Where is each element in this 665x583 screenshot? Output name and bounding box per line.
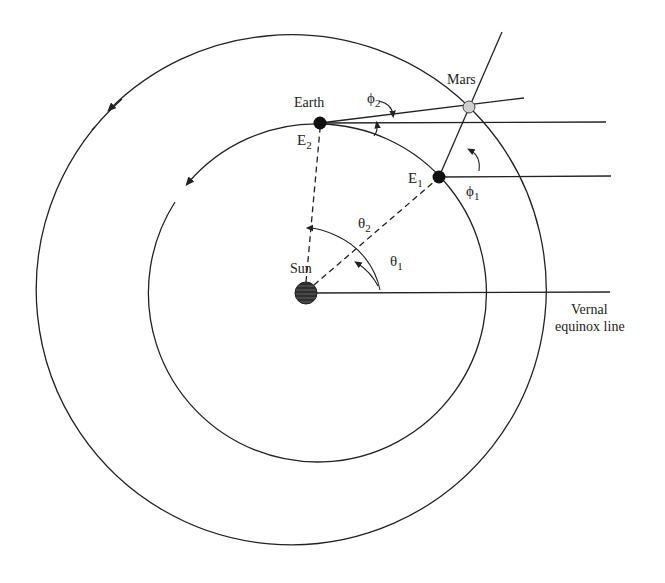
e2-label: E2 (297, 132, 312, 151)
earth-e2-dot (314, 117, 327, 130)
vernal-equinox-line (306, 292, 610, 293)
theta2-arc-tail (309, 228, 337, 236)
mars-label: Mars (447, 72, 476, 87)
theta2-label: θ2 (358, 215, 371, 234)
phi2-label: ϕ2 (367, 90, 380, 109)
e1-label: E1 (408, 170, 423, 189)
phi1-arc (470, 150, 479, 171)
sun-to-e1-dashed (314, 181, 435, 285)
earth-e1-dot (433, 171, 446, 184)
earth-label: Earth (294, 95, 324, 110)
sun-to-e2-dashed (306, 129, 320, 282)
e1-reference-line (439, 176, 611, 177)
vernal-label-line2: equinox line (555, 319, 625, 334)
e2-sightline-to-mars (320, 98, 524, 123)
mars-dot (463, 101, 475, 113)
theta1-label: θ1 (390, 253, 403, 272)
phi2-arc-upper (379, 101, 393, 115)
phi1-label: ϕ1 (466, 183, 479, 202)
vernal-label-line1: Vernal (571, 302, 608, 317)
theta2-arc (337, 236, 380, 290)
sun-label: Sun (290, 261, 312, 276)
orbit-diagram: Earth Mars Sun E2 E1 θ2 θ1 ϕ2 ϕ1 Vernal … (0, 0, 665, 583)
sun-icon (295, 282, 317, 304)
